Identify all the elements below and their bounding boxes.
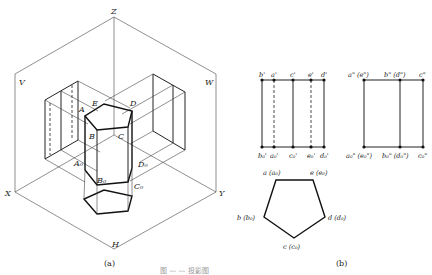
label-C0: C₀ bbox=[134, 182, 144, 191]
projection-diagram: Z V W X Y H A E D B C A₀ B₀ C₀ D₀ (a) b'… bbox=[0, 0, 432, 275]
side-view-rect bbox=[364, 80, 423, 147]
label-D0: D₀ bbox=[137, 160, 148, 169]
projector bbox=[130, 92, 185, 124]
label-B0: B₀ bbox=[96, 176, 107, 185]
caption-a: (a) bbox=[104, 259, 115, 268]
label-A0: A₀ bbox=[73, 159, 84, 168]
side-top-label: b" (d") bbox=[384, 71, 406, 79]
w-plane-projection bbox=[153, 74, 185, 150]
front-top-label: d' bbox=[321, 71, 327, 79]
label-E: E bbox=[91, 99, 98, 108]
figure-a-isometric: Z V W X Y H A E D B C A₀ B₀ C₀ D₀ (a) bbox=[4, 7, 225, 268]
label-D: D bbox=[129, 99, 137, 108]
label-z: Z bbox=[110, 7, 117, 16]
projector bbox=[105, 74, 153, 101]
h-plane-projection bbox=[84, 190, 132, 214]
front-bottom-label: a₀' bbox=[270, 152, 278, 160]
caption-b: (b) bbox=[336, 259, 347, 268]
figure-b-three-views: b' a' c' e' d' b₀' a₀' c₀' e₀' d₀' a" (e… bbox=[237, 71, 427, 268]
side-bottom-label: c₀" bbox=[418, 152, 427, 160]
top-label-b: b (b₀) bbox=[237, 214, 256, 222]
front-bottom-label: d₀' bbox=[320, 152, 329, 160]
y-axis bbox=[114, 135, 216, 192]
label-w: W bbox=[205, 78, 214, 87]
label-B: B bbox=[88, 132, 95, 141]
label-A: A bbox=[78, 105, 85, 114]
front-top-label: a' bbox=[271, 71, 277, 79]
front-top-label: b' bbox=[259, 71, 265, 79]
projector bbox=[84, 170, 85, 199]
side-bottom-label: a₀" (e₀") bbox=[346, 152, 373, 160]
front-bottom-label: e₀' bbox=[307, 152, 315, 160]
projector bbox=[130, 131, 153, 144]
side-bottom-label: b₀" (d₀") bbox=[382, 152, 409, 160]
prism-bottom-face bbox=[85, 168, 132, 185]
figure-caption: 图 — — 投影图 bbox=[160, 266, 209, 275]
side-view: a" (e") b" (d") c" a₀" (e₀") b₀" (d₀") c… bbox=[346, 71, 427, 160]
side-top-label: a" (e") bbox=[348, 71, 369, 79]
label-x: X bbox=[4, 189, 11, 198]
label-y: Y bbox=[219, 189, 225, 198]
front-view: b' a' c' e' d' b₀' a₀' c₀' e₀' d₀' bbox=[258, 71, 329, 160]
top-label-d: d (d₀) bbox=[328, 214, 347, 222]
front-bottom-label: c₀' bbox=[289, 152, 297, 160]
front-bottom-label: b₀' bbox=[258, 152, 267, 160]
label-v: V bbox=[19, 78, 26, 87]
top-view: a (a₀) e (e₀) b (b₀) d (d₀) c (c₀) bbox=[237, 169, 347, 251]
label-C: C bbox=[118, 132, 124, 141]
top-view-pentagon bbox=[264, 180, 325, 238]
side-top-label: c" bbox=[419, 71, 426, 79]
top-label-e: e (e₀) bbox=[310, 169, 328, 177]
front-top-label: c' bbox=[290, 71, 296, 79]
front-top-label: e' bbox=[308, 71, 314, 79]
top-label-c: c (c₀) bbox=[283, 243, 300, 251]
top-label-a: a (a₀) bbox=[263, 169, 281, 177]
label-h: H bbox=[111, 240, 120, 249]
